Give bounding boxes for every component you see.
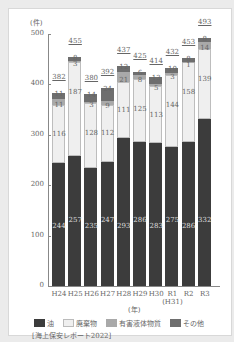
legend-label: 有害液体物質 — [119, 318, 161, 328]
legend-swatch — [106, 319, 117, 327]
y-axis-unit: (件) — [30, 17, 42, 27]
legend-item-other: その他 — [170, 318, 204, 328]
y-tick-label: 400 — [14, 79, 44, 87]
y-tick-label: 100 — [14, 231, 44, 239]
x-tick-label: R3 — [194, 290, 216, 298]
x-axis-unit: (年) — [128, 304, 140, 314]
bar-segment-oil — [117, 138, 130, 286]
data-label: 14 — [193, 44, 217, 52]
y-tick-mark — [48, 286, 51, 287]
legend-item-harmful-liquid: 有害液体物質 — [106, 318, 161, 328]
source-note: [海上保安レポート2022] — [32, 330, 111, 340]
data-label: 8 — [193, 35, 217, 43]
legend-item-oil: 油 — [34, 318, 54, 328]
bar-segment-waste — [198, 49, 211, 119]
bar-segment-oil — [198, 119, 211, 286]
y-tick-mark — [48, 185, 51, 186]
data-label: 332 — [193, 216, 217, 224]
legend: 油 廃棄物 有害液体物質 その他 — [34, 318, 210, 328]
data-label: 139 — [193, 75, 217, 83]
y-tick-label: 300 — [14, 130, 44, 138]
y-tick-label: 200 — [14, 180, 44, 188]
y-tick-mark — [48, 34, 51, 35]
bar-segment-oil — [149, 143, 162, 286]
legend-label: 廃棄物 — [76, 318, 97, 328]
legend-item-waste: 廃棄物 — [63, 318, 97, 328]
y-tick-label: 0 — [14, 281, 44, 289]
x-tick-sublabel: (H31) — [161, 298, 183, 306]
legend-swatch — [34, 319, 45, 327]
bar-segment-oil — [133, 142, 146, 286]
bar-segment-oil — [182, 142, 195, 286]
y-tick-mark — [48, 84, 51, 85]
y-tick-mark — [48, 236, 51, 237]
legend-swatch — [63, 319, 74, 327]
y-axis — [48, 34, 49, 286]
y-tick-label: 500 — [14, 29, 44, 37]
legend-label: その他 — [183, 318, 204, 328]
legend-label: 油 — [47, 318, 54, 328]
bar-total-label: 493 — [192, 18, 218, 26]
bar-segment-waste — [165, 75, 178, 148]
legend-swatch — [170, 319, 181, 327]
